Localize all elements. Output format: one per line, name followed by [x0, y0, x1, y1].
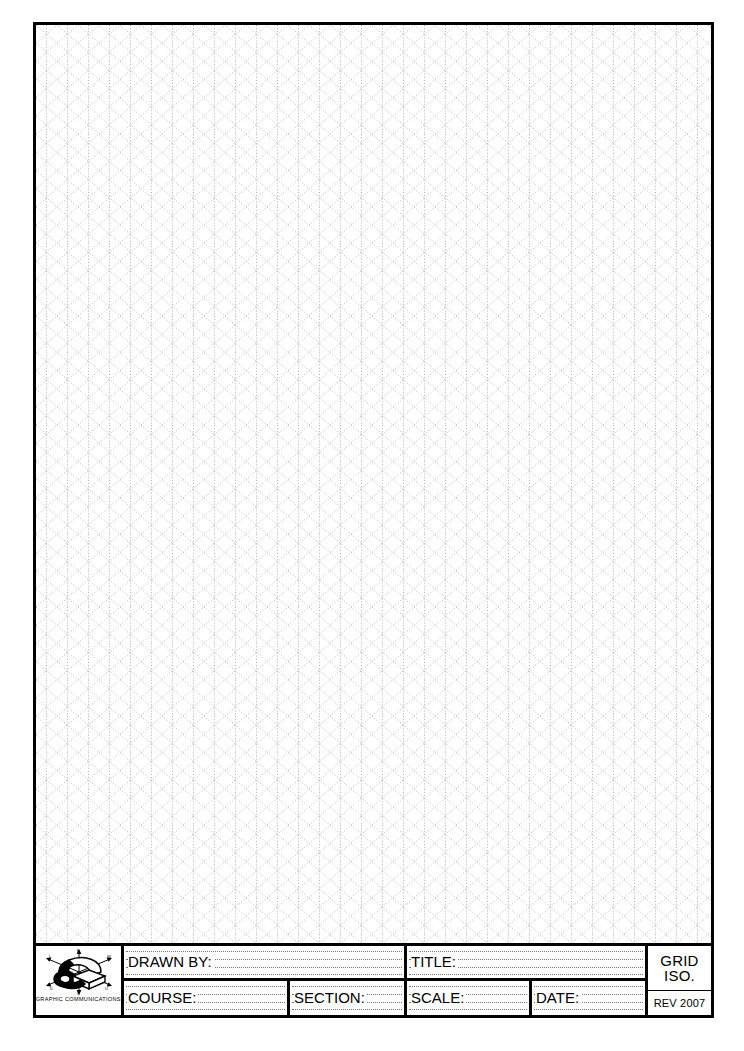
revision-label: REV 2007 — [648, 991, 711, 1015]
svg-text:D: D — [50, 986, 53, 991]
logo-cell: E W L S U D — [36, 946, 124, 1015]
logo-caption: GRAPHIC COMMUNICATIONS — [36, 996, 121, 1004]
field-date[interactable]: DATE: — [532, 981, 645, 1016]
drawing-border-frame: E W L S U D — [33, 22, 714, 1018]
sheet-type-cell: GRID ISO. REV 2007 — [645, 946, 711, 1015]
field-course[interactable]: COURSE: — [124, 981, 290, 1016]
sheet-type-line1: GRID — [660, 953, 698, 968]
svg-text:W: W — [107, 954, 111, 959]
title-block-fields: DRAWN BY: TITLE: COURSE: — [124, 946, 645, 1015]
field-section[interactable]: SECTION: — [290, 981, 407, 1016]
field-scale[interactable]: SCALE: — [407, 981, 532, 1016]
title-block: E W L S U D — [36, 943, 711, 1015]
title-block-row-top: DRAWN BY: TITLE: — [124, 946, 645, 981]
isometric-grid-svg — [36, 25, 711, 1015]
field-date-label: DATE: — [536, 990, 581, 1005]
sheet-type-labels: GRID ISO. — [648, 946, 711, 991]
svg-text:L: L — [49, 954, 52, 959]
field-section-label: SECTION: — [294, 990, 367, 1005]
field-title[interactable]: TITLE: — [407, 946, 645, 978]
isometric-axes-logo-icon: E W L S U D — [39, 948, 119, 996]
drawing-sheet: E W L S U D — [0, 0, 744, 1051]
field-title-label: TITLE: — [411, 954, 458, 969]
field-drawn-by[interactable]: DRAWN BY: — [124, 946, 407, 978]
field-drawn-by-label: DRAWN BY: — [128, 954, 214, 969]
sheet-type-line2: ISO. — [664, 968, 695, 983]
field-course-label: COURSE: — [128, 990, 198, 1005]
svg-text:U: U — [105, 986, 108, 991]
isometric-grid-field — [36, 25, 711, 1015]
svg-text:E: E — [77, 948, 80, 953]
title-block-row-bottom: COURSE: SECTION: SCALE: — [124, 981, 645, 1016]
field-scale-label: SCALE: — [411, 990, 466, 1005]
